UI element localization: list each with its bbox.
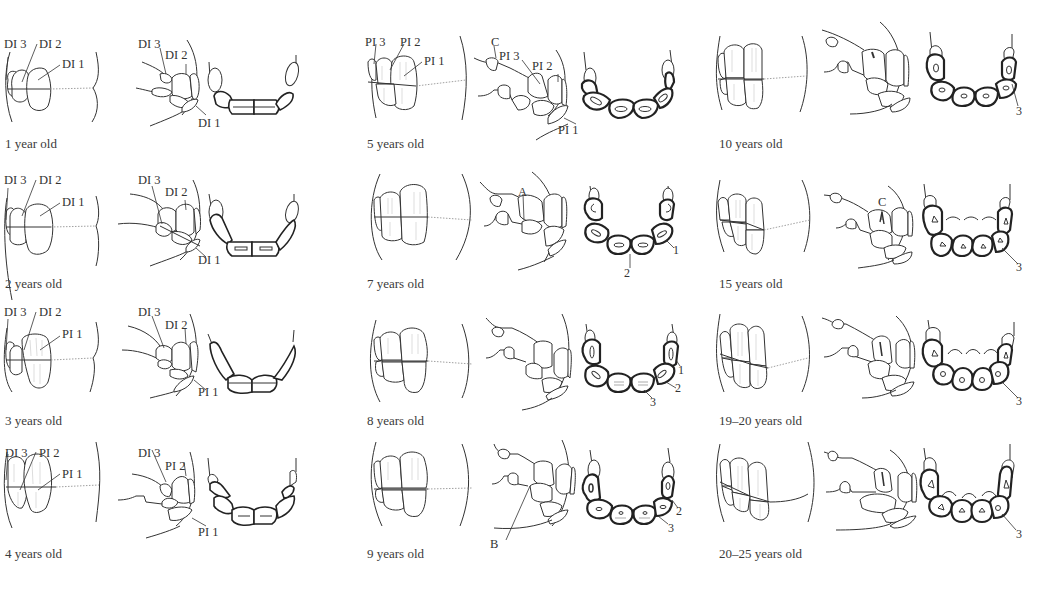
label-di3-front: DI 3 bbox=[4, 306, 27, 319]
caption-1-year: 1 year old bbox=[5, 136, 57, 152]
label-pi2-front: PI 2 bbox=[400, 36, 421, 49]
label-di3-side: DI 3 bbox=[138, 38, 161, 51]
caption-4-years: 4 years old bbox=[5, 546, 62, 562]
panel-10-years: 3 10 years old bbox=[712, 0, 1046, 140]
label-di1-front: DI 1 bbox=[62, 58, 85, 71]
label-pi1-side: PI 1 bbox=[558, 124, 579, 137]
label-di3-side: DI 3 bbox=[138, 174, 161, 187]
label-di1-side: DI 1 bbox=[198, 254, 221, 267]
caption-3-years: 3 years old bbox=[5, 413, 62, 429]
panel-1-year: DI 3 DI 2 DI 1 DI 3 DI 2 DI 1 1 year old bbox=[0, 0, 340, 140]
label-di1-front: DI 1 bbox=[62, 196, 85, 209]
caption-9-years: 9 years old bbox=[367, 546, 424, 562]
label-pi1-side: PI 1 bbox=[198, 526, 219, 539]
caption-7-years: 7 years old bbox=[367, 276, 424, 292]
label-pi1-side: PI 1 bbox=[198, 386, 219, 399]
caption-8-years: 8 years old bbox=[367, 413, 424, 429]
label-di2-front: DI 2 bbox=[39, 174, 62, 187]
label-c-side: C bbox=[878, 196, 886, 209]
label-di3-side: DI 3 bbox=[138, 306, 161, 319]
label-c-side: C bbox=[491, 36, 499, 49]
caption-15-years: 15 years old bbox=[719, 276, 783, 292]
panel-5-years: PI 3 PI 2 PI 1 C PI 3 PI 2 PI 1 5 years … bbox=[362, 0, 702, 140]
label-b-side: B bbox=[490, 538, 498, 551]
label-3-arch: 3 bbox=[1016, 105, 1022, 117]
label-3-arch: 3 bbox=[650, 396, 656, 408]
label-di3-front: DI 3 bbox=[4, 174, 27, 187]
label-di2-side: DI 2 bbox=[165, 49, 188, 62]
label-pi1-front: PI 1 bbox=[62, 468, 83, 481]
label-2-arch: 2 bbox=[676, 505, 682, 517]
caption-2-years: 2 years old bbox=[5, 276, 62, 292]
caption-19-20-years: 19–20 years old bbox=[719, 413, 802, 429]
label-di3-front: DI 3 bbox=[5, 447, 28, 460]
label-di2-side: DI 2 bbox=[165, 186, 188, 199]
label-di3-front: DI 3 bbox=[4, 38, 27, 51]
label-pi1-front: PI 1 bbox=[62, 328, 83, 341]
label-di3-side: DI 3 bbox=[138, 447, 161, 460]
label-pi3-front: PI 3 bbox=[365, 36, 386, 49]
label-di2-side: DI 2 bbox=[165, 319, 188, 332]
label-3-arch: 3 bbox=[1016, 261, 1022, 273]
label-di1-side: DI 1 bbox=[198, 117, 221, 130]
panel-8-years: 1 2 3 8 years old bbox=[362, 300, 702, 440]
caption-20-25-years: 20–25 years old bbox=[719, 546, 802, 562]
label-di2-front: DI 2 bbox=[39, 306, 62, 319]
caption-10-years: 10 years old bbox=[719, 136, 783, 152]
label-pi3-side: PI 3 bbox=[499, 50, 520, 63]
panel-9-years: B 2 3 9 years old bbox=[362, 430, 702, 570]
incisor-drawing-1-year bbox=[0, 0, 340, 140]
incisor-drawing-10-years bbox=[712, 0, 1046, 140]
panel-15-years: C 3 15 years old bbox=[712, 160, 1046, 300]
panel-19-20-years: 3 19–20 years old bbox=[712, 300, 1046, 440]
label-1-arch: 1 bbox=[678, 364, 684, 376]
label-3-arch: 3 bbox=[668, 522, 674, 534]
label-2-arch: 2 bbox=[675, 382, 681, 394]
label-pi1-front: PI 1 bbox=[424, 55, 445, 68]
panel-20-25-years: 3 20–25 years old bbox=[712, 430, 1046, 570]
label-pi2-front: PI 2 bbox=[39, 447, 60, 460]
label-pi2-side: PI 2 bbox=[165, 460, 186, 473]
panel-3-years: DI 3 DI 2 PI 1 DI 3 DI 2 PI 1 3 years ol… bbox=[0, 300, 340, 440]
label-3-arch: 3 bbox=[1016, 395, 1022, 407]
label-pi2-side: PI 2 bbox=[532, 60, 553, 73]
panel-2-years: DI 3 DI 2 DI 1 DI 3 DI 2 DI 1 2 years ol… bbox=[0, 160, 340, 300]
label-3-arch: 3 bbox=[1016, 528, 1022, 540]
label-1-arch: 1 bbox=[673, 244, 679, 256]
label-a-side: A bbox=[518, 186, 527, 199]
panel-4-years: DI 3 PI 2 PI 1 DI 3 PI 2 PI 1 4 years ol… bbox=[0, 430, 340, 570]
label-2-arch: 2 bbox=[624, 267, 630, 279]
label-di2-front: DI 2 bbox=[39, 38, 62, 51]
caption-5-years: 5 years old bbox=[367, 136, 424, 152]
panel-7-years: A 1 2 7 years old bbox=[362, 160, 702, 300]
